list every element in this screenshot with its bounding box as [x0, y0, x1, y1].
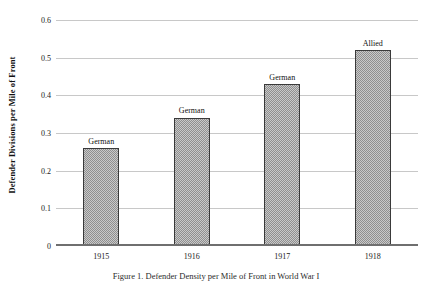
bar-group: German — [247, 74, 317, 246]
y-axis-tick-label: 0 — [47, 242, 51, 251]
gridline — [56, 20, 418, 21]
y-axis-tick-label: 0.3 — [41, 129, 51, 138]
y-axis-title-text: Defender Divisions per Mile of Front — [6, 57, 16, 194]
bar — [264, 84, 300, 246]
bar — [174, 118, 210, 246]
bar-value-label: Allied — [363, 40, 383, 48]
bar — [83, 148, 119, 246]
y-axis-tick-label: 0.5 — [41, 53, 51, 62]
y-axis-tick-label: 0.6 — [41, 16, 51, 25]
bar-group: Allied — [338, 40, 408, 246]
x-axis-tick-label: 1915 — [93, 252, 109, 261]
y-axis-tick-label: 0.1 — [41, 204, 51, 213]
plot-area: 00.10.20.30.40.50.6 GermanGermanGermanAl… — [56, 20, 418, 246]
y-axis-tick-label: 0.4 — [41, 91, 51, 100]
y-axis-tick-label: 0.2 — [41, 166, 51, 175]
x-axis-line — [56, 244, 418, 246]
bar-value-label: German — [269, 74, 295, 82]
bar-value-label: German — [88, 138, 114, 146]
x-axis-tick-label: 1916 — [184, 252, 200, 261]
x-axis-tick-label: 1917 — [274, 252, 290, 261]
bar-group: German — [66, 138, 136, 246]
y-axis-title: Defender Divisions per Mile of Front — [0, 0, 22, 250]
bar-value-label: German — [179, 107, 205, 115]
bar-group: German — [157, 107, 227, 246]
figure-caption: Figure 1. Defender Density per Mile of F… — [0, 271, 432, 281]
x-axis-tick-label: 1918 — [365, 252, 381, 261]
bar — [355, 50, 391, 246]
